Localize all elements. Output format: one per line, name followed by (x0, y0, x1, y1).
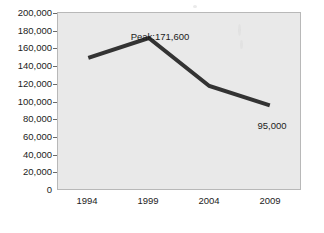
y-tick-label: 100,000 (0, 97, 52, 107)
x-tick-label: 2009 (259, 196, 280, 206)
peak-annotation: Peak:171,600 (131, 32, 190, 42)
y-tick-label: 40,000 (0, 150, 52, 160)
y-tick-label: 60,000 (0, 132, 52, 142)
data-series-line (88, 38, 269, 105)
endpoint-annotation: 95,000 (257, 121, 286, 131)
y-tick-label: 200,000 (0, 8, 52, 18)
x-tick-label: 2004 (198, 196, 219, 206)
y-tick-label: 80,000 (0, 114, 52, 124)
y-tick-label: 20,000 (0, 168, 52, 178)
y-tick-label: 180,000 (0, 26, 52, 36)
scan-artifact (193, 5, 197, 8)
x-tick-label: 1999 (137, 196, 158, 206)
y-axis: 200,000 180,000 160,000 140,000 120,000 … (0, 0, 52, 233)
line-chart-figure: 200,000 180,000 160,000 140,000 120,000 … (0, 0, 324, 233)
y-tick-label: 120,000 (0, 79, 52, 89)
x-tick-label: 1994 (76, 196, 97, 206)
y-tick-label: 160,000 (0, 44, 52, 54)
y-tick-label: 0 (0, 185, 52, 195)
y-tick-label: 140,000 (0, 61, 52, 71)
